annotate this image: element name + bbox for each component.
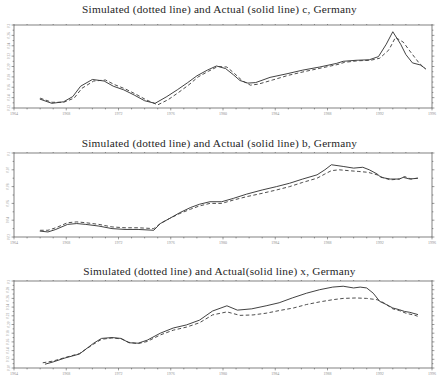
x-tick-label: 1964 (10, 371, 18, 376)
x-tick-label: 1992 (376, 371, 384, 376)
y-tick-label: 0.20 (7, 321, 11, 327)
y-tick-label: 0.22 (7, 312, 11, 318)
y-tick-label: 0.16 (7, 84, 11, 90)
y-tick-label: 0.26 (7, 295, 11, 301)
x-tick-label: 1992 (376, 240, 384, 245)
y-tick-label: 0.18 (7, 74, 11, 80)
chart-b-plot: 1964196819721976198019841988199219960.02… (0, 152, 439, 247)
y-tick-label: 0.10 (7, 365, 11, 371)
x-axis: 196419681972197619801984198819921996 (10, 152, 436, 245)
chart-x-title: Simulated (dotted line) and Actual(solid… (0, 265, 439, 278)
chart-x-plot: 1964196819721976198019841988199219960.10… (0, 280, 439, 386)
y-tick-label: 0.06 (7, 200, 11, 206)
simulated-line (40, 37, 425, 104)
y-tick-label: 0.18 (7, 330, 11, 336)
y-tick-label: 0.28 (7, 24, 11, 28)
actual-line (40, 32, 425, 104)
x-tick-label: 1968 (62, 240, 70, 245)
chart-x: Simulated (dotted line) and Actual(solid… (0, 265, 439, 386)
chart-c-plot: 1964196819721976198019841988199219960.12… (0, 24, 439, 120)
x-tick-label: 1976 (167, 111, 175, 116)
chart-c: Simulated (dotted line) and Actual (soli… (0, 0, 439, 120)
y-tick-label: 0.12 (7, 356, 11, 362)
actual-line (40, 165, 418, 232)
y-tick-label: 0.02 (7, 234, 11, 240)
y-tick-label: 0.22 (7, 53, 11, 59)
y-axis: 0.100.120.140.160.180.200.220.240.260.28… (7, 280, 435, 371)
simulated-line (43, 298, 418, 363)
x-tick-label: 1972 (115, 240, 123, 245)
chart-c-title: Simulated (dotted line) and Actual (soli… (0, 3, 439, 16)
y-tick-label: 0.10 (7, 166, 11, 172)
y-tick-label: 0.08 (7, 183, 11, 189)
x-tick-label: 1988 (324, 111, 332, 116)
x-tick-label: 1964 (10, 240, 18, 245)
x-tick-label: 1972 (115, 111, 123, 116)
x-tick-label: 1972 (115, 371, 123, 376)
y-tick-label: 0.24 (7, 304, 11, 310)
x-tick-label: 1976 (167, 240, 175, 245)
x-tick-label: 1984 (271, 111, 279, 116)
x-tick-label: 1996 (428, 111, 436, 116)
y-tick-label: 0.04 (7, 217, 11, 223)
x-tick-label: 1980 (219, 371, 227, 376)
plot-frame (14, 153, 432, 237)
chart-b-title: Simulated (dotted line) and Actual (soli… (0, 137, 439, 150)
x-tick-label: 1996 (428, 240, 436, 245)
y-tick-label: 0.24 (7, 42, 11, 48)
y-tick-label: 0.20 (7, 63, 11, 69)
x-tick-label: 1988 (324, 240, 332, 245)
x-tick-label: 1964 (10, 111, 18, 116)
x-tick-label: 1980 (219, 111, 227, 116)
chart-b: Simulated (dotted line) and Actual (soli… (0, 137, 439, 247)
y-tick-label: 0.14 (7, 94, 11, 100)
y-tick-label: 0.30 (7, 280, 11, 284)
x-tick-label: 1988 (324, 371, 332, 376)
x-axis: 196419681972197619801984198819921996 (10, 280, 436, 376)
y-axis: 0.020.040.060.080.100.12 (7, 152, 435, 240)
x-tick-label: 1968 (62, 371, 70, 376)
x-tick-label: 1976 (167, 371, 175, 376)
x-tick-label: 1980 (219, 240, 227, 245)
actual-line (45, 286, 417, 364)
x-tick-label: 1984 (271, 371, 279, 376)
x-tick-label: 1992 (376, 111, 384, 116)
x-tick-label: 1968 (62, 111, 70, 116)
y-tick-label: 0.12 (7, 152, 11, 156)
y-tick-label: 0.12 (7, 105, 11, 111)
y-tick-label: 0.16 (7, 339, 11, 345)
y-tick-label: 0.14 (7, 347, 11, 353)
figure-page: Simulated (dotted line) and Actual (soli… (0, 0, 439, 386)
y-tick-label: 0.26 (7, 32, 11, 38)
x-axis: 196419681972197619801984198819921996 (10, 24, 436, 116)
x-tick-label: 1996 (428, 371, 436, 376)
y-tick-label: 0.28 (7, 286, 11, 292)
x-tick-label: 1984 (271, 240, 279, 245)
